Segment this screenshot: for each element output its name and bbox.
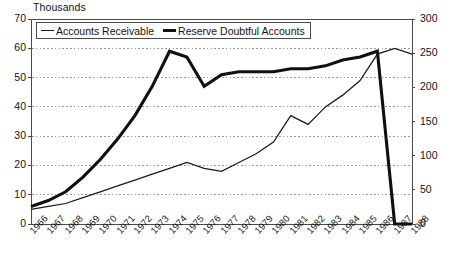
legend-entry-reserve-doubtful-accounts: Reserve Doubtful Accounts: [163, 25, 305, 37]
legend-label: Reserve Doubtful Accounts: [178, 25, 305, 37]
series-line-accounts-receivable: [31, 48, 412, 209]
left-axis-tick-label: 70: [0, 13, 26, 23]
legend-label: Accounts Receivable: [56, 25, 154, 37]
legend-line-swatch-icon: [163, 29, 176, 32]
left-axis-tick-label: 50: [0, 72, 26, 82]
left-axis-tick-label: 10: [0, 189, 26, 199]
right-axis-tick-label: 300: [420, 13, 446, 23]
left-axis-tick-label: 20: [0, 159, 26, 169]
left-axis-tick-label: 0: [0, 218, 26, 228]
left-axis-tick-label: 60: [0, 42, 26, 52]
left-axis-tick-label: 40: [0, 101, 26, 111]
right-axis-tick-label: 50: [420, 184, 446, 194]
legend-entry-accounts-receivable: Accounts Receivable: [41, 25, 154, 37]
right-axis-tick-label: 250: [420, 47, 446, 57]
chart-container: Thousands Accounts Receivable Reserve Do…: [0, 0, 449, 274]
left-axis-tick-label: 30: [0, 130, 26, 140]
legend-line-swatch-icon: [41, 30, 54, 31]
right-axis-tick-label: 150: [420, 116, 446, 126]
series-line-reserve-doubtful-accounts: [31, 51, 412, 224]
right-axis-tick-label: 100: [420, 150, 446, 160]
right-axis-tick-label: 200: [420, 81, 446, 91]
chart-legend: Accounts Receivable Reserve Doubtful Acc…: [36, 22, 311, 39]
